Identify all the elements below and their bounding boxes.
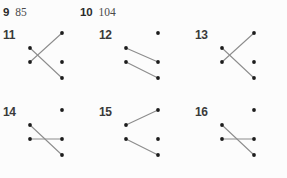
connector-line: [30, 125, 62, 155]
dot-figure: [192, 24, 287, 101]
connector-line: [30, 33, 62, 62]
dot-figure: [0, 101, 96, 178]
figure-dot: [28, 60, 32, 64]
figure-dot: [60, 31, 64, 35]
answer-entry: 985: [3, 2, 27, 20]
puzzle-cell[interactable]: 12: [96, 24, 192, 101]
worksheet-page: 98510104 111213141516: [0, 0, 287, 178]
connector-line: [126, 48, 158, 62]
figure-dot: [252, 153, 256, 157]
figure-dot: [60, 153, 64, 157]
figure-dot: [252, 137, 256, 141]
figure-dot: [28, 46, 32, 50]
dot-figure: [96, 101, 192, 178]
figure-dot: [220, 137, 224, 141]
figure-dot: [156, 108, 160, 112]
figure-dot: [252, 76, 256, 80]
dot-figure: [96, 24, 192, 101]
figure-dot: [220, 60, 224, 64]
figure-dot: [60, 76, 64, 80]
answer-item-number: 10: [80, 6, 92, 18]
figure-dot: [156, 137, 160, 141]
figure-dot: [252, 31, 256, 35]
figure-dot: [28, 123, 32, 127]
figure-dot: [156, 31, 160, 35]
connector-line: [222, 125, 254, 155]
figure-dot: [252, 108, 256, 112]
figure-dot: [252, 60, 256, 64]
figure-dot: [156, 76, 160, 80]
answer-entry: 10104: [80, 2, 116, 20]
connector-line: [126, 62, 158, 78]
figure-dot: [124, 123, 128, 127]
answer-item-value: 85: [15, 6, 27, 18]
figure-dot: [124, 60, 128, 64]
puzzle-cell[interactable]: 13: [192, 24, 287, 101]
puzzle-cell[interactable]: 14: [0, 101, 96, 178]
connector-line: [126, 110, 158, 125]
figure-dot: [60, 137, 64, 141]
figure-dot: [28, 137, 32, 141]
figure-dot: [220, 46, 224, 50]
dot-figure: [0, 24, 96, 101]
puzzle-cell[interactable]: 15: [96, 101, 192, 178]
connector-line: [222, 33, 254, 62]
puzzle-grid: 111213141516: [0, 24, 287, 178]
figure-dot: [220, 123, 224, 127]
connector-line: [126, 139, 158, 155]
puzzle-cell[interactable]: 16: [192, 101, 287, 178]
figure-dot: [124, 46, 128, 50]
figure-dot: [124, 137, 128, 141]
connector-line: [30, 48, 62, 78]
puzzle-cell[interactable]: 11: [0, 24, 96, 101]
dot-figure: [192, 101, 287, 178]
figure-dot: [156, 153, 160, 157]
answer-row: 98510104: [0, 0, 287, 24]
connector-line: [222, 48, 254, 78]
answer-item-number: 9: [3, 6, 9, 18]
figure-dot: [60, 60, 64, 64]
figure-dot: [156, 60, 160, 64]
answer-item-value: 104: [98, 6, 115, 18]
figure-dot: [60, 108, 64, 112]
